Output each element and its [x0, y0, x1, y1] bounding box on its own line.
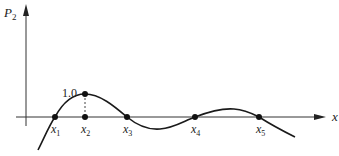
root-label-x3: x3 — [122, 122, 132, 138]
root-label-x2: x2 — [80, 122, 90, 138]
root-dot-x4 — [192, 114, 198, 120]
y-axis-arrow-icon — [23, 4, 29, 16]
root-dot-x3 — [124, 114, 130, 120]
peak-dot — [82, 91, 88, 97]
x-axis-arrow-icon — [314, 114, 326, 120]
root-dot-x5 — [256, 114, 262, 120]
x-axis-label: x — [331, 109, 338, 124]
root-dot-x1 — [52, 114, 58, 120]
x-axis — [16, 114, 326, 120]
root-dot-x2 — [82, 114, 88, 120]
peak-label: 1.0 — [62, 86, 77, 100]
y-axis — [23, 4, 29, 126]
polynomial-diagram: P2 x 1.0 x1 x2 x3 x4 x5 — [0, 0, 339, 156]
y-axis-label: P2 — [3, 5, 16, 22]
root-label-x4: x4 — [190, 122, 200, 138]
root-label-x1: x1 — [50, 122, 60, 138]
root-label-x5: x5 — [255, 122, 265, 138]
